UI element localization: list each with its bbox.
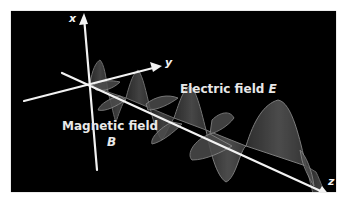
em-wave-diagram <box>0 0 348 207</box>
electric-field-label: Electric field E <box>180 83 277 96</box>
z-axis-label: z <box>328 176 334 188</box>
x-arrowhead <box>79 13 88 25</box>
magnetic-field-text: Magnetic field <box>62 119 158 133</box>
x-axis-label: x <box>69 13 76 25</box>
magnetic-field-label: Magnetic field <box>62 120 158 133</box>
electric-field-symbol: E <box>269 82 277 96</box>
y-arrowhead <box>150 62 162 72</box>
y-axis-label: y <box>165 57 172 69</box>
x-axis-line <box>84 17 97 170</box>
electric-field-text: Electric field <box>180 82 269 96</box>
magnetic-field-symbol: B <box>107 136 116 149</box>
